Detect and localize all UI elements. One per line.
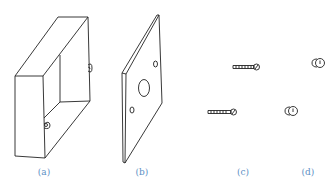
screw-1 xyxy=(233,64,260,70)
nut-1 xyxy=(312,59,325,68)
label-part-d: (d) xyxy=(302,167,315,177)
label-part-c: (c) xyxy=(237,167,249,177)
box-part-a xyxy=(15,17,92,158)
screw-2 xyxy=(208,109,237,115)
plate-part-b xyxy=(122,15,162,163)
assembly-figure xyxy=(0,0,336,192)
label-part-a: (a) xyxy=(38,167,50,177)
nut-2 xyxy=(285,107,298,116)
label-part-b: (b) xyxy=(136,167,149,177)
